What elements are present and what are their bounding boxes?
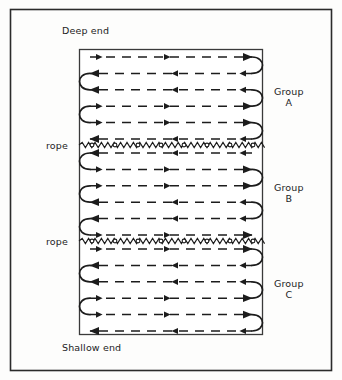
- rope-buoy: [251, 239, 255, 243]
- group-a-label: Group A: [274, 86, 304, 108]
- group-b-label-line2: B: [274, 193, 304, 204]
- shallow-end-label: Shallow end: [62, 342, 121, 353]
- rope-buoy: [205, 239, 209, 243]
- group-a-label-line2: A: [274, 97, 304, 108]
- rope-buoy: [228, 239, 232, 243]
- group-a-label-line1: Group: [274, 86, 304, 97]
- pool-outline: [80, 50, 263, 335]
- rope-buoy: [251, 143, 255, 147]
- rope-buoy: [90, 239, 94, 243]
- rope-buoy: [136, 239, 140, 243]
- rope-buoy: [205, 143, 209, 147]
- group-b-label: Group B: [274, 182, 304, 204]
- rope-buoy: [90, 143, 94, 147]
- rope-label-bottom: rope: [46, 236, 68, 247]
- rope-buoy: [113, 143, 117, 147]
- rope-buoy: [159, 239, 163, 243]
- group-c-label-line1: Group: [274, 278, 304, 289]
- group-c-label: Group C: [274, 278, 304, 300]
- rope-buoy: [228, 143, 232, 147]
- pool-lane-diagram: Deep end Shallow end rope rope Group A G…: [0, 0, 342, 380]
- group-c-label-line2: C: [274, 289, 304, 300]
- rope-buoy: [182, 143, 186, 147]
- rope-label-top: rope: [46, 140, 68, 151]
- rope-buoy: [136, 143, 140, 147]
- rope-buoy: [159, 143, 163, 147]
- rope-buoy: [182, 239, 186, 243]
- rope-buoy: [113, 239, 117, 243]
- deep-end-label: Deep end: [62, 25, 109, 36]
- group-b-label-line1: Group: [274, 182, 304, 193]
